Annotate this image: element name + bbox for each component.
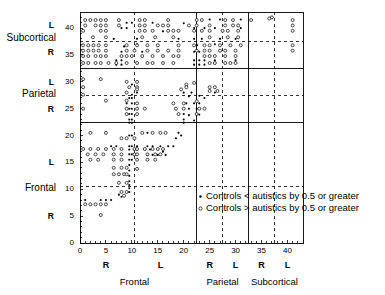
data-point-open [156,44,159,47]
data-point-filled [198,95,200,97]
data-point-open [231,19,234,22]
data-point-open [125,55,128,58]
data-point-open [92,49,95,52]
data-point-filled [235,59,237,61]
data-point-open [125,80,128,83]
data-point-open [198,107,201,110]
data-point-filled [198,51,200,53]
legend-label: Controls > autistics by 0.5 or greater [206,202,359,213]
data-point-open [84,203,87,206]
data-point-open [208,86,211,89]
data-point-filled [123,45,125,47]
data-point-open [177,44,180,47]
data-point-filled [193,51,195,53]
y-axis-region-label: Frontal [0,183,56,193]
data-point-open [141,131,144,134]
data-point-open [112,173,115,176]
data-point-open [291,29,294,32]
data-point-filled [193,64,195,66]
data-point-open [268,17,271,20]
data-point-open [213,86,216,89]
data-point-open [125,181,128,184]
data-point-open [203,107,206,110]
data-point-filled [183,118,185,120]
data-point-filled [128,180,130,182]
data-point-open [221,29,224,32]
legend-entry: Controls < autistics by 0.5 or greater [196,190,359,201]
y-axis-tick-label: 20 [58,132,74,140]
data-point-open [151,147,154,150]
data-point-open [128,86,131,89]
data-point-filled [183,92,185,94]
data-point-filled [131,83,133,85]
data-point-open [99,214,102,217]
data-point-filled [162,151,164,153]
data-point-open [234,49,237,52]
data-point-filled [131,97,133,99]
data-point-open [82,62,85,65]
data-point-open [193,81,196,84]
data-point-open [195,113,198,116]
data-point-open [125,44,128,47]
data-point-open [229,62,232,65]
data-point-filled [177,38,179,40]
data-point-open [82,44,85,47]
data-point-open [107,62,110,65]
data-point-filled [110,199,112,201]
data-point-open [208,36,211,39]
data-point-filled [128,145,130,147]
data-point-open [82,107,85,110]
data-point-open [117,19,120,22]
x-axis-hemisphere-label: L [277,261,297,270]
data-point-open [82,147,85,150]
data-point-filled [165,154,167,156]
data-point-open [92,44,95,47]
y-axis-hemisphere-label: L [40,158,54,167]
x-axis-hemisphere-label: L [226,261,246,270]
y-axis-tick-label: 10 [58,185,74,193]
x-axis-tick-label: 20 [174,247,194,255]
data-point-filled [240,27,242,29]
data-point-open [82,78,85,81]
data-point-open [94,153,97,156]
y-axis-hemisphere-label: R [40,212,54,221]
data-point-filled [128,159,130,161]
data-point-open [117,24,120,27]
scatter-plot-figure: 4035302520151050LRLRLRSubcorticalParieta… [0,0,385,295]
data-point-filled [219,18,221,20]
data-point-filled [198,102,200,104]
data-point-filled [105,199,107,201]
data-point-open [136,44,139,47]
data-point-filled [136,145,138,147]
data-point-open [136,80,139,83]
data-point-open [182,107,185,110]
data-point-open [151,62,154,65]
data-point-open [234,55,237,58]
data-point-open [125,190,128,193]
data-point-filled [159,145,161,147]
data-point-open [120,55,123,58]
data-point-open [143,24,146,27]
data-point-open [89,158,92,161]
data-point-filled [214,92,216,94]
data-point-open [133,137,136,140]
data-point-open [138,19,141,22]
data-point-open [97,49,100,52]
x-axis-tick-label: 25 [200,247,220,255]
data-point-open [146,62,149,65]
data-point-open [161,62,164,65]
data-point-filled [120,27,122,29]
data-point-open [185,86,188,89]
data-point-filled [209,18,211,20]
data-point-filled [131,22,133,24]
data-point-filled [185,102,187,104]
data-point-filled [110,145,112,147]
data-point-open [172,55,175,58]
data-point-filled [128,164,130,166]
data-point-filled [235,38,237,40]
data-point-filled [198,64,200,66]
data-point-open [141,36,144,39]
data-point-open [104,24,107,27]
data-point-open [159,153,162,156]
data-point-filled [115,145,117,147]
